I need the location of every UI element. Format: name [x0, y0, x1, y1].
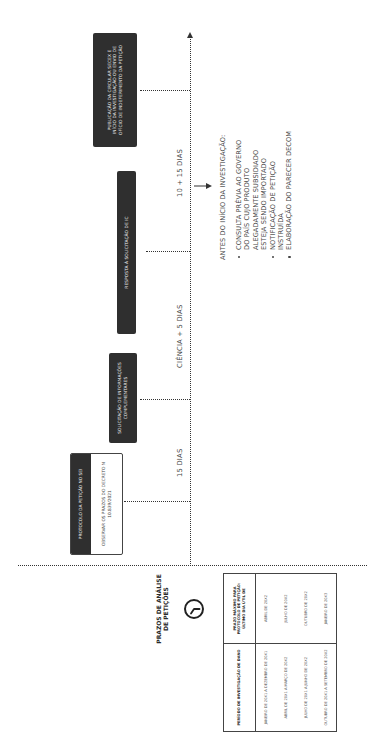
- pre-investigation-notes: ANTES DO INÍCIO DA INVESTIGAÇÃO: CONSULT…: [219, 60, 294, 260]
- interval-label-ciencia-5-dias: CIÊNCIA + 5 DIAS: [176, 305, 184, 368]
- event-solicitacao: SOLICITAÇÃO DE INFORMAÇÕES COMPLEMENTARE…: [109, 353, 137, 443]
- clock-icon: [183, 598, 205, 620]
- period-cell: JULHO DE 20X1 A JUNHO DE 20X2: [296, 644, 316, 732]
- event-protocolo-title: PROTOCOLO DA PETIÇÃO NO SEI: [71, 454, 91, 554]
- notes-list: CONSULTA PRÉVIA AO GOVERNO DO PAÍS CUJO …: [235, 60, 294, 260]
- interval-label-15-dias: 15 DIAS: [176, 449, 184, 477]
- deadline-cell: JANEIRO DE 20X3: [316, 574, 337, 644]
- arrow-down-icon: [194, 183, 212, 189]
- column-header-deadline: PRAZO MÁXIMO PARA PROTOCOLO DE PETIÇÃO: …: [224, 574, 256, 644]
- table-row: JANEIRO DE 20X1 A DEZEMBRO DE 20X1 ABRIL…: [256, 574, 277, 732]
- deadlines-table: PERÍODO DE INVESTIGAÇÃO DE DANO PRAZO MÁ…: [223, 573, 337, 732]
- table-row: JULHO DE 20X1 A JUNHO DE 20X2 OUTUBRO DE…: [296, 574, 316, 732]
- connector-publicacao: [140, 90, 190, 91]
- list-item: NOTIFICAÇÃO DE PETIÇÃO INSTRUÍDA: [269, 60, 286, 260]
- deadline-cell: ABRIL DE 20X2: [256, 574, 277, 644]
- connector-resposta: [146, 251, 190, 252]
- section-title-line2: DE PETIÇÕES: [162, 568, 169, 650]
- section-title: PRAZOS DE ANÁLISE DE PETIÇÕES: [155, 568, 169, 650]
- deadline-cell: JULHO DE 20X2: [276, 574, 296, 644]
- column-header-period: PERÍODO DE INVESTIGAÇÃO DE DANO: [224, 644, 256, 732]
- list-item: ELABORAÇÃO DO PARECER DECOM: [285, 60, 293, 260]
- connector-protocolo: [124, 501, 190, 502]
- interval-label-10-15-dias: 10 + 15 DIAS: [176, 149, 184, 197]
- period-cell: ABRIL DE 20X1 A MARÇO DE 20X2: [276, 644, 296, 732]
- event-resposta: RESPOSTA À SOLICITAÇÃO DE IC: [117, 171, 136, 334]
- section-title-line1: PRAZOS DE ANÁLISE: [155, 568, 162, 650]
- diagram-canvas: PRAZOS DE ANÁLISE DE PETIÇÕES PERÍODO DE…: [0, 0, 367, 748]
- table-row: ABRIL DE 20X1 A MARÇO DE 20X2 JULHO DE 2…: [276, 574, 296, 732]
- table-row: OUTUBRO DE 20X1 A SETEMBRO DE 20X2 JANEI…: [316, 574, 337, 732]
- period-cell: JANEIRO DE 20X1 A DEZEMBRO DE 20X1: [256, 644, 277, 732]
- connector-solicitacao: [140, 399, 190, 400]
- event-publicacao: PUBLICAÇÃO DA CIRCULAR SECEX E INÍCIO DA…: [93, 33, 137, 147]
- table-header-row: PERÍODO DE INVESTIGAÇÃO DE DANO PRAZO MÁ…: [224, 574, 256, 732]
- event-protocolo-note: OBSERVAR OS PRAZOS DO DECRETO N 10.839/2…: [91, 454, 123, 554]
- timeline-axis: [190, 35, 191, 566]
- deadline-cell: OUTUBRO DE 20X2: [296, 574, 316, 644]
- section-divider: [18, 565, 367, 566]
- list-item: CONSULTA PRÉVIA AO GOVERNO DO PAÍS CUJO …: [235, 60, 269, 260]
- period-cell: OUTUBRO DE 20X1 A SETEMBRO DE 20X2: [316, 644, 337, 732]
- arrow-right-icon: [187, 32, 193, 38]
- event-protocolo: PROTOCOLO DA PETIÇÃO NO SEI OBSERVAR OS …: [70, 453, 123, 555]
- notes-title: ANTES DO INÍCIO DA INVESTIGAÇÃO:: [219, 60, 227, 260]
